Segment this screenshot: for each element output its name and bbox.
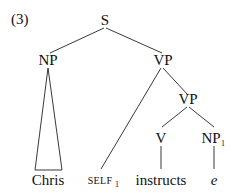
edge-s-np bbox=[50, 28, 104, 53]
node-v: V bbox=[156, 130, 167, 146]
np1-index: 1 bbox=[221, 139, 225, 148]
node-np-subject: NP bbox=[38, 52, 57, 68]
node-s: S bbox=[101, 12, 109, 28]
edge-s-vp bbox=[106, 28, 162, 53]
edge-vp-v bbox=[162, 107, 187, 127]
leaf-self: SELF bbox=[88, 175, 113, 186]
leaf-e: e bbox=[211, 172, 218, 188]
leaf-chris: Chris bbox=[32, 172, 65, 188]
node-vp-lower: VP bbox=[178, 91, 197, 107]
triangle-np-chris bbox=[35, 68, 62, 170]
node-np1: NP bbox=[201, 130, 220, 146]
edge-vp-self bbox=[101, 68, 161, 169]
example-number: (3) bbox=[11, 11, 29, 28]
self-index: 1 bbox=[115, 180, 119, 189]
syntax-tree: (3) S NP VP VP V NP 1 Chris SELF 1 instr… bbox=[0, 0, 237, 193]
node-vp-upper: VP bbox=[153, 52, 172, 68]
leaf-instructs: instructs bbox=[136, 172, 187, 188]
edge-vp-np1 bbox=[189, 107, 214, 127]
